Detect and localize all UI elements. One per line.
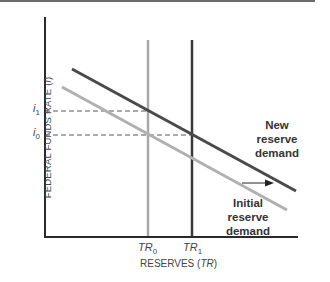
y-axis-label: FEDERAL FUNDS RATE (i) <box>42 53 53 223</box>
x-axis-label: RESERVES (TR) <box>140 258 217 269</box>
tick-tr0: TR0 <box>138 241 157 256</box>
new-demand-label: New reserve demand <box>242 118 312 160</box>
tick-i0: i0 <box>33 126 40 141</box>
tick-tr1: TR1 <box>183 241 202 256</box>
tick-i1: i1 <box>33 102 40 117</box>
shift-arrow-icon <box>242 180 274 187</box>
initial-demand-label: Initial reserve demand <box>213 196 283 238</box>
